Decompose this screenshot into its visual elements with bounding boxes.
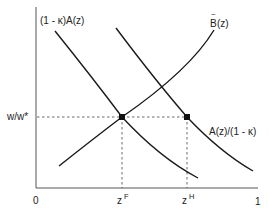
curve-B-tilde bbox=[59, 30, 214, 166]
label-B-tilde-base: B bbox=[210, 18, 217, 29]
y-axis-label-wage-ratio: w/w* bbox=[6, 111, 28, 122]
label-one-minus-kappa-A: (1 - κ)A(z) bbox=[40, 15, 84, 26]
svg-text:z: z bbox=[182, 195, 187, 206]
label-B-tilde: B ~ (z) bbox=[210, 10, 229, 29]
diagram-canvas: (1 - κ)A(z) A(z)/(1 - κ) B ~ (z) w/w* 0 … bbox=[0, 0, 269, 213]
point-H-marker bbox=[184, 114, 190, 120]
label-A-over-one-minus-kappa: A(z)/(1 - κ) bbox=[209, 126, 256, 137]
x-axis-origin-label: 0 bbox=[33, 195, 39, 206]
svg-text:z: z bbox=[117, 195, 122, 206]
label-B-tilde-suffix: (z) bbox=[217, 18, 229, 29]
x-tick-label-zF: z F bbox=[117, 192, 129, 206]
x-axis-end-label: 1 bbox=[255, 196, 261, 207]
point-F-marker bbox=[119, 114, 125, 120]
x-tick-label-zH: z H bbox=[182, 192, 194, 206]
label-B-tilde-accent: ~ bbox=[211, 10, 216, 19]
svg-text:F: F bbox=[124, 192, 129, 201]
curve-A-over-one-minus-kappa bbox=[116, 28, 253, 171]
svg-text:H: H bbox=[189, 192, 194, 201]
